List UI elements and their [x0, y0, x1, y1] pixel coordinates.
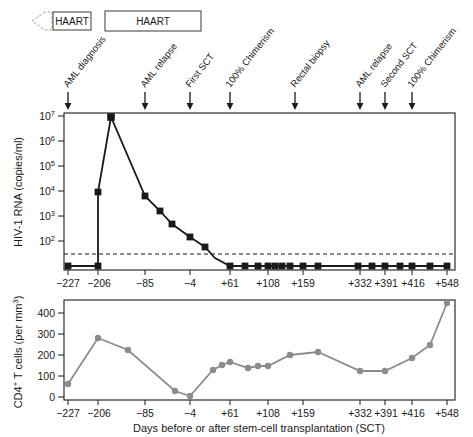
cd4-xtick-p391: +391 — [374, 407, 398, 419]
cd4-xtick-p159: +159 — [291, 407, 315, 419]
viral-load-plot-frame — [64, 113, 455, 270]
event-label-chimerism-1: 100% Chimerism — [223, 25, 276, 89]
cd4-xtick-m4: −4 — [184, 407, 196, 419]
event-label-first-sct: First SCT — [183, 51, 216, 90]
xtick-p391: +391 — [374, 277, 398, 289]
cd4-x-ticks — [68, 400, 447, 405]
ytick-1e5-exp: 5 — [51, 159, 55, 168]
cd4-xtick-p416: +416 — [401, 407, 425, 419]
event-arrow-chimerism-1 — [227, 92, 234, 110]
cd4-y-axis-label: CD4+ T cells (per mm3) — [11, 296, 24, 409]
event-arrow-aml-relapse-1 — [142, 92, 149, 110]
event-arrow-rectal-biopsy — [292, 92, 299, 110]
cd4-xtick-p108: +108 — [256, 407, 280, 419]
xtick-p159: +159 — [291, 277, 315, 289]
xtick-p108: +108 — [256, 277, 280, 289]
cd4-xtick-m227: −227 — [56, 407, 80, 419]
xtick-p332: +332 — [348, 277, 372, 289]
event-label-rectal-biopsy: Rectal biopsy — [288, 37, 332, 89]
xtick-p61: +61 — [221, 277, 239, 289]
ytick-1e6-base: 10 — [39, 135, 51, 147]
haart-dashed-arrow-icon — [32, 12, 52, 30]
viral-load-x-tick-labels: −227 −206 −85 −4 +61 +108 +159 +332 +391… — [56, 277, 459, 289]
ytick-1e3-base: 10 — [39, 210, 51, 222]
viral-load-y-ticks — [58, 116, 64, 241]
viral-load-x-ticks — [68, 270, 447, 275]
viral-load-panel: 107 106 105 104 103 102 HIV-1 RNA (copie… — [12, 109, 459, 289]
svg-text:105: 105 — [39, 159, 55, 172]
event-arrow-chimerism-2 — [409, 92, 416, 110]
ytick-1e2-exp: 2 — [51, 234, 55, 243]
x-axis-label: Days before or after stem-cell transplan… — [133, 422, 385, 434]
haart-early-label: HAART — [55, 16, 89, 27]
cd4-ytick-100: 100 — [37, 370, 55, 382]
cd4-x-tick-labels: −227 −206 −85 −4 +61 +108 +159 +332 +391… — [56, 407, 459, 419]
ytick-1e5-base: 10 — [39, 160, 51, 172]
cd4-y-ticks — [58, 313, 64, 397]
event-arrow-aml-relapse-2 — [357, 92, 364, 110]
cd4-plot-frame — [64, 300, 455, 400]
viral-load-y-tick-labels: 107 106 105 104 103 102 — [39, 109, 55, 247]
event-arrow-aml-diagnosis — [65, 92, 72, 110]
cd4-y-tick-labels: 400 300 200 100 0 — [37, 307, 55, 403]
cd4-xtick-m85: −85 — [136, 407, 154, 419]
cd4-ytick-300: 300 — [37, 328, 55, 340]
ytick-1e3-exp: 3 — [51, 209, 55, 218]
xtick-m227: −227 — [56, 277, 80, 289]
event-arrow-first-sct — [187, 92, 194, 110]
event-arrows — [65, 92, 416, 110]
xtick-p548: +548 — [435, 277, 459, 289]
cd4-xtick-p61: +61 — [221, 407, 239, 419]
cd4-ytick-0: 0 — [49, 391, 55, 403]
xtick-m85: −85 — [136, 277, 154, 289]
cd4-ytick-200: 200 — [37, 349, 55, 361]
ytick-1e7-base: 10 — [39, 110, 51, 122]
cd4-ytick-400: 400 — [37, 307, 55, 319]
treatment-bar-group: HAART HAART — [32, 11, 201, 31]
ytick-1e6-exp: 6 — [51, 134, 55, 143]
cd4-panel: 400 300 200 100 0 CD4+ T cells (per mm3) — [11, 296, 459, 434]
figure-svg: HAART HAART AML diagnosis AML relapse Fi… — [0, 0, 473, 437]
svg-text:104: 104 — [39, 184, 55, 197]
viral-load-y-axis-label: HIV-1 RNA (copies/ml) — [12, 137, 24, 247]
svg-text:106: 106 — [39, 134, 55, 147]
svg-text:102: 102 — [39, 234, 55, 247]
cd4-xtick-p548: +548 — [435, 407, 459, 419]
event-label-aml-relapse-1: AML relapse — [138, 41, 179, 90]
ytick-1e4-base: 10 — [39, 185, 51, 197]
event-label-chimerism-2: 100% Chimerism — [405, 25, 458, 89]
event-label-aml-diagnosis: AML diagnosis — [61, 33, 108, 89]
xtick-m206: −206 — [87, 277, 111, 289]
cd4-xtick-p332: +332 — [348, 407, 372, 419]
ytick-1e4-exp: 4 — [51, 184, 55, 193]
cd4-xtick-m206: −206 — [87, 407, 111, 419]
figure-panel: HAART HAART AML diagnosis AML relapse Fi… — [0, 0, 473, 437]
xtick-p416: +416 — [401, 277, 425, 289]
ytick-1e2-base: 10 — [39, 235, 51, 247]
event-arrow-second-sct — [382, 92, 389, 110]
ytick-1e7-exp: 7 — [51, 109, 55, 118]
xtick-m4: −4 — [184, 277, 196, 289]
haart-late-label: HAART — [136, 16, 170, 27]
svg-text:103: 103 — [39, 209, 55, 222]
event-annotations: AML diagnosis AML relapse First SCT 100%… — [61, 25, 458, 110]
svg-text:107: 107 — [39, 109, 55, 122]
